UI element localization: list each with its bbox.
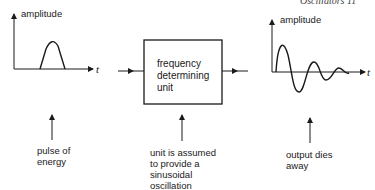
left-graph	[14, 14, 93, 69]
output-caption: output dies away	[286, 149, 332, 171]
left-y-axis-label: amplitude	[21, 8, 62, 19]
right-x-axis-label: t	[367, 66, 370, 78]
right-graph	[272, 20, 365, 92]
caption-line: energy	[37, 156, 70, 167]
box-text-line: determining	[157, 70, 209, 82]
caption-line: unit is assumed	[150, 147, 216, 158]
caption-line: pulse of	[37, 145, 70, 156]
unit-caption: unit is assumed to provide a sinusoidal …	[150, 147, 216, 190]
caption-line: output dies	[286, 149, 332, 160]
pulse-curve	[40, 42, 65, 69]
left-x-axis-label: t	[96, 63, 99, 75]
caption-line: oscillation	[150, 180, 216, 190]
caption-line: to provide a	[150, 158, 216, 169]
damped-oscillation-curve	[276, 45, 349, 92]
right-y-axis-label: amplitude	[280, 14, 321, 25]
box-text-line: unit	[157, 82, 209, 94]
box-text: frequency determining unit	[157, 58, 209, 94]
pulse-caption: pulse of energy	[37, 145, 70, 167]
caption-line: away	[286, 160, 332, 171]
caption-line: sinusoidal	[150, 169, 216, 180]
box-text-line: frequency	[157, 58, 209, 70]
